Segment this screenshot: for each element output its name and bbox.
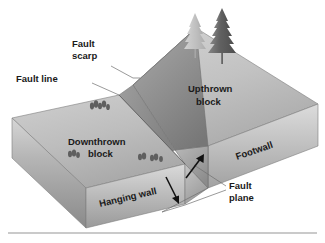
label-fault-line: Fault line — [16, 73, 58, 84]
label-upthrown-block-line2: block — [196, 96, 222, 107]
diagram-canvas: Fault scarp Fault line Upthrown block Do… — [0, 0, 325, 243]
label-downthrown-block-line2: block — [88, 148, 114, 159]
label-fault-plane-line2: plane — [229, 192, 254, 203]
label-fault-scarp-line1: Fault — [72, 38, 96, 49]
label-fault-scarp-line2: scarp — [72, 50, 98, 61]
label-upthrown-block-line1: Upthrown — [188, 83, 233, 94]
label-downthrown-block-line1: Downthrown — [68, 136, 126, 147]
label-fault-plane-line1: Fault — [229, 180, 253, 191]
fault-block-diagram: Fault scarp Fault line Upthrown block Do… — [0, 0, 325, 243]
